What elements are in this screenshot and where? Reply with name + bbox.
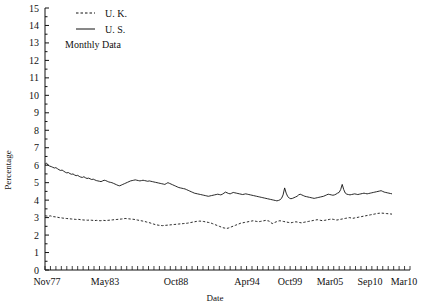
y-axis-title: Percentage [3, 150, 13, 189]
y-tick-label: 3 [34, 212, 39, 223]
y-tick-label: 6 [34, 160, 39, 171]
y-tick-label: 10 [29, 90, 39, 101]
legend-note-monthly-data: Monthly Data [65, 39, 121, 50]
x-tick-label: Oct99 [278, 276, 302, 287]
x-tick-label: May83 [91, 276, 119, 287]
x-tick-label: Mar05 [317, 276, 344, 287]
y-tick-label: 9 [34, 107, 39, 118]
y-tick-label: 13 [29, 37, 39, 48]
x-tick-label: Sep10 [358, 276, 383, 287]
line-chart: 0123456789101112131415 Nov77May83Oct88Ap… [0, 0, 422, 304]
legend-label-us: U. S. [105, 24, 125, 35]
y-tick-label: 2 [34, 230, 39, 241]
y-tick-label: 7 [34, 142, 39, 153]
x-tick-label: Apr94 [234, 276, 260, 287]
y-tick-label: 8 [34, 125, 39, 136]
chart-background [0, 0, 422, 304]
x-axis-title: Date [207, 293, 224, 303]
y-tick-label: 14 [29, 20, 39, 31]
y-tick-label: 12 [29, 55, 39, 66]
x-tick-label: Nov77 [33, 276, 60, 287]
y-tick-label: 0 [34, 265, 39, 276]
y-tick-label: 15 [29, 3, 39, 14]
x-tick-label: Oct88 [164, 276, 188, 287]
y-tick-label: 11 [29, 72, 39, 83]
y-tick-label: 1 [34, 247, 39, 258]
x-tick-label: Mar10 [391, 276, 418, 287]
y-tick-label: 4 [34, 195, 39, 206]
legend-label-uk: U. K. [105, 8, 127, 19]
y-tick-label: 5 [34, 177, 39, 188]
chart-canvas: 0123456789101112131415 Nov77May83Oct88Ap… [0, 0, 422, 304]
